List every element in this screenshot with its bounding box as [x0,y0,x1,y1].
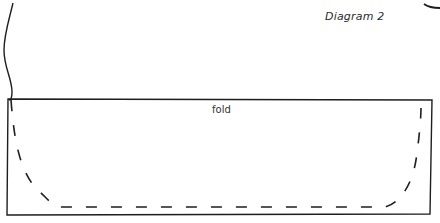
diagram-title: Diagram 2 [325,10,385,23]
fold-label: fold [212,104,231,115]
diagram-canvas: Diagram 2 fold [0,0,440,223]
fold-rectangle [7,99,432,215]
cutting-line [11,100,421,207]
fabric-edge-wavy [4,3,13,100]
corner-arc [424,4,440,8]
